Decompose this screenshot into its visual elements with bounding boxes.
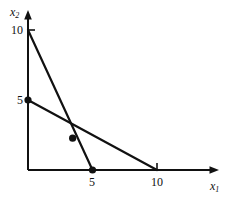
y-tick-label-5: 5	[5, 94, 23, 106]
tick-marks-group	[28, 30, 157, 170]
constraint-line-steep	[28, 30, 93, 170]
x-axis-arrowhead	[210, 166, 220, 174]
axes-group	[24, 10, 219, 174]
point-y-intercept-vertex	[24, 96, 31, 103]
x-axis-label-subscript: 1	[215, 185, 219, 194]
data-points-group	[24, 96, 96, 173]
y-axis-label: x2	[10, 6, 19, 18]
series-group	[28, 30, 157, 170]
y-axis-arrowhead	[24, 10, 32, 20]
constraint-line-shallow	[28, 100, 157, 170]
x-axis-label: x1	[210, 180, 219, 192]
x-tick-label-10: 10	[146, 176, 168, 188]
y-axis-label-subscript: 2	[15, 11, 19, 20]
point-x-intercept-vertex	[89, 166, 96, 173]
figure-container: x2 x1 10 5 5 10	[0, 0, 239, 204]
point-intersection-vertex	[69, 135, 76, 142]
y-tick-label-10: 10	[5, 24, 23, 36]
x-tick-label-5: 5	[82, 176, 102, 188]
plot-canvas	[0, 0, 239, 204]
